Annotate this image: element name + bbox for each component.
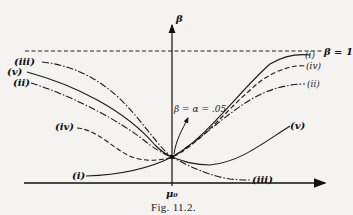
asymptote-label: β = 1 [323,46,353,57]
label-iii-right: (iii) [252,174,273,185]
figure-caption: Fig. 11.2. [151,201,196,213]
y-axis-label: β [175,13,183,24]
label-i-right: (i) [305,50,315,60]
curve-v [27,72,290,165]
label-i-left: (i) [72,170,86,181]
label-v-left: (v) [7,66,23,77]
label-iv-right: (iv) [306,61,321,71]
curve-i [86,55,310,176]
power-curves-figure: β μ₀ β = 1 β = α = .05 (iii) (v) (ii) (i… [0,0,353,215]
convergence-point [170,155,174,159]
curve-ii [31,83,305,157]
x-axis-label: μ₀ [166,188,178,199]
label-ii-left: (ii) [13,77,30,88]
label-ii-right: (ii) [307,79,320,89]
label-iv-left: (iv) [55,121,74,132]
annotation-label: β = α = .05 [173,104,226,114]
label-v-right: (v) [290,120,306,131]
